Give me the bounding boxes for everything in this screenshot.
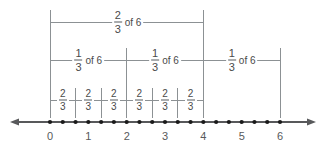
fraction-numerator: 1 — [75, 48, 81, 59]
fraction-denominator: 3 — [75, 62, 81, 73]
number-line-dot — [137, 120, 141, 124]
fraction-suffix: of 6 — [85, 55, 102, 65]
axis-tick-label-1: 1 — [85, 131, 91, 142]
fraction-numerator: 1 — [152, 48, 158, 59]
axis-tick-label-4: 4 — [200, 131, 206, 142]
fraction-two-thirds: 2 3 — [110, 89, 118, 112]
number-line-dot — [99, 120, 103, 124]
number-line-dot — [214, 120, 218, 124]
bracket-label-row-bottom-4: 2 3 — [159, 89, 171, 112]
fraction-two-thirds: 2 3 — [135, 89, 143, 112]
number-line-dot — [163, 120, 167, 124]
fraction-two-thirds: 2 3 — [187, 89, 195, 112]
fraction-one-third: 1 3 — [74, 48, 82, 73]
number-line-dot — [188, 120, 192, 124]
diagram-canvas — [0, 0, 323, 145]
fraction-denominator: 3 — [137, 102, 143, 112]
bracket-label-row-bottom-3: 2 3 — [133, 89, 145, 112]
fraction-numerator: 2 — [60, 89, 66, 99]
fraction-denominator: 3 — [115, 24, 121, 35]
axis-tick-label-2: 2 — [124, 131, 130, 142]
number-line-dot — [48, 120, 52, 124]
bracket-label-row-middle-1: 1 3 of 6 — [149, 48, 181, 73]
fraction-numerator: 1 — [229, 48, 235, 59]
fraction-numerator: 2 — [111, 89, 117, 99]
number-line-dot — [227, 120, 231, 124]
fraction-denominator: 3 — [162, 102, 168, 112]
axis-tick-label-0: 0 — [47, 131, 53, 142]
number-line-dot — [240, 120, 244, 124]
fraction-suffix: of 6 — [239, 55, 256, 65]
number-line-dot — [252, 120, 256, 124]
axis-arrow-left-icon — [10, 118, 19, 125]
number-line-dot — [201, 120, 205, 124]
axis-tick-label-5: 5 — [239, 131, 245, 142]
axis-tick-label-3: 3 — [162, 131, 168, 142]
number-line-dot — [278, 120, 282, 124]
fraction-two-thirds: 2 3 — [114, 10, 122, 35]
bracket-label-row-bottom-5: 2 3 — [185, 89, 197, 112]
fraction-numerator: 2 — [86, 89, 92, 99]
number-line-dot — [176, 120, 180, 124]
number-line-dot — [73, 120, 77, 124]
fraction-numerator: 2 — [137, 89, 143, 99]
fraction-two-thirds: 2 3 — [84, 89, 92, 112]
bracket-label-row-middle-2: 1 3 of 6 — [226, 48, 258, 73]
bracket-label-row-bottom-1: 2 3 — [82, 89, 94, 112]
number-line-dot — [86, 120, 90, 124]
fraction-suffix: of 6 — [125, 17, 142, 27]
axis-tick-label-6: 6 — [277, 131, 283, 142]
fraction-denominator: 3 — [111, 102, 117, 112]
fraction-two-thirds: 2 3 — [59, 89, 67, 112]
fraction-two-thirds: 2 3 — [161, 89, 169, 112]
bracket-label-row-bottom-2: 2 3 — [108, 89, 120, 112]
fraction-one-third: 1 3 — [228, 48, 236, 73]
axis-arrow-right-icon — [307, 118, 316, 125]
number-line-dot — [150, 120, 154, 124]
fraction-numerator: 2 — [188, 89, 194, 99]
fraction-denominator: 3 — [229, 62, 235, 73]
number-line-dot — [125, 120, 129, 124]
number-line-dot — [61, 120, 65, 124]
fraction-denominator: 3 — [60, 102, 66, 112]
fraction-numerator: 2 — [115, 10, 121, 21]
bracket-label-row-bottom-0: 2 3 — [57, 89, 69, 112]
fraction-denominator: 3 — [188, 102, 194, 112]
fraction-denominator: 3 — [152, 62, 158, 73]
number-line-dot — [265, 120, 269, 124]
fraction-one-third: 1 3 — [151, 48, 159, 73]
bracket-label-row-middle-0: 1 3 of 6 — [72, 48, 104, 73]
fraction-denominator: 3 — [86, 102, 92, 112]
bracket-label-row-top-0: 2 3 of 6 — [112, 10, 144, 35]
number-line-diagram: 2 3 of 6 1 3 of 6 1 3 of 6 1 3 of 6 — [0, 0, 323, 145]
number-line-dot — [112, 120, 116, 124]
fraction-numerator: 2 — [162, 89, 168, 99]
fraction-suffix: of 6 — [162, 55, 179, 65]
